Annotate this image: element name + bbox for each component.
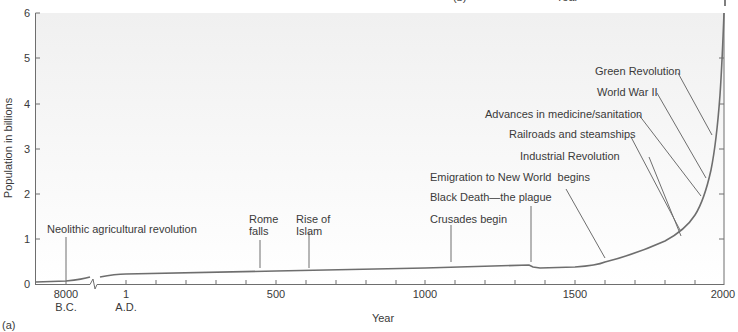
y-tick-6: 6 (24, 7, 30, 19)
population-chart: (b) Year 6 5 4 3 2 1 0 Population in bil… (0, 0, 738, 332)
y-tick-1: 1 (24, 233, 30, 245)
annotation-islam-line1: Rise of (296, 213, 331, 225)
x-tick-1: 1 (123, 288, 129, 300)
annotation-green-revolution: Green Revolution (595, 65, 681, 77)
y-axis-title: Population in billions (2, 97, 14, 198)
panel-b-year-label: Year (556, 0, 579, 3)
annotation-medicine: Advances in medicine/sanitation (485, 108, 642, 120)
annotation-islam-line2: Islam (296, 225, 322, 237)
plot-area (36, 13, 724, 284)
y-tick-5: 5 (24, 52, 30, 64)
x-tick-1000: 1000 (413, 288, 437, 300)
annotation-railroads: Railroads and steamships (509, 128, 636, 140)
y-axis: 6 5 4 3 2 1 0 Population in billions (2, 7, 40, 290)
x-tick-8000: 8000 (54, 288, 78, 300)
annotation-emigration: Emigration to New World begins (430, 171, 590, 183)
x-axis-title: Year (372, 312, 395, 324)
panel-b-label: (b) (453, 0, 466, 3)
x-tick-1500: 1500 (563, 288, 587, 300)
y-tick-0: 0 (24, 278, 30, 290)
annotation-neolithic: Neolithic agricultural revolution (47, 223, 197, 235)
annotation-rome-line2: falls (249, 225, 269, 237)
annotation-industrial-revolution: Industrial Revolution (520, 150, 620, 162)
annotation-crusades: Crusades begin (430, 213, 507, 225)
annotation-ww2: World War II (597, 86, 658, 98)
annotation-rome-line1: Rome (249, 213, 278, 225)
x-tick-bc: B.C. (55, 301, 76, 313)
panel-a-label: (a) (2, 319, 15, 331)
annotation-black-death: Black Death—the plague (430, 191, 552, 203)
y-tick-4: 4 (24, 98, 30, 110)
x-axis: 8000 B.C. 1 A.D. 500 1000 1500 2000 Year (35, 279, 735, 324)
y-tick-3: 3 (24, 143, 30, 155)
y-tick-2: 2 (24, 188, 30, 200)
x-tick-500: 500 (267, 288, 285, 300)
x-tick-ad: A.D. (115, 301, 136, 313)
x-tick-2000: 2000 (711, 288, 735, 300)
